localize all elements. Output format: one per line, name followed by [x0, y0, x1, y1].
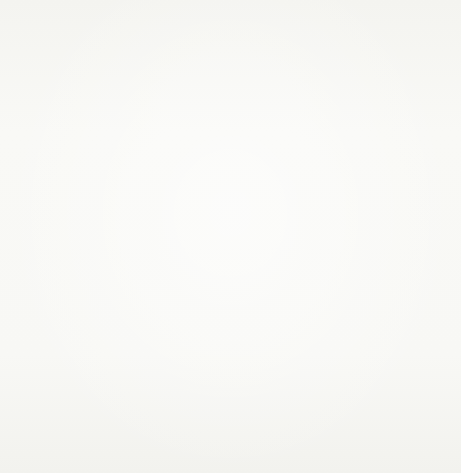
x-tick-label: 20 — [129, 421, 146, 441]
x-tick-label: 40 — [195, 421, 212, 441]
y-tick-label: 0.6 — [20, 207, 64, 227]
page-title: Histogram — [0, 5, 461, 27]
histogram-bar — [72, 85, 105, 415]
x-tick-label: 100 — [387, 421, 413, 441]
histogram-figure: Histogram Frequency density Time (s) O 1… — [0, 0, 461, 473]
histogram-bar — [105, 151, 138, 415]
origin-label: O — [44, 404, 56, 424]
x-tick-label: 60 — [260, 421, 277, 441]
histogram-bar — [236, 398, 400, 415]
histogram-bar — [138, 250, 171, 415]
x-axis-title: Time (s) — [0, 444, 461, 465]
x-tick-label: 80 — [326, 421, 343, 441]
plot-canvas — [0, 0, 461, 473]
y-tick-label: 0.8 — [20, 141, 64, 161]
histogram-bar — [170, 283, 203, 415]
y-tick-label: 1 — [20, 75, 64, 95]
y-tick-label: 0.2 — [20, 339, 64, 359]
y-tick-label: 0.4 — [20, 273, 64, 293]
histogram-bar — [203, 349, 236, 415]
